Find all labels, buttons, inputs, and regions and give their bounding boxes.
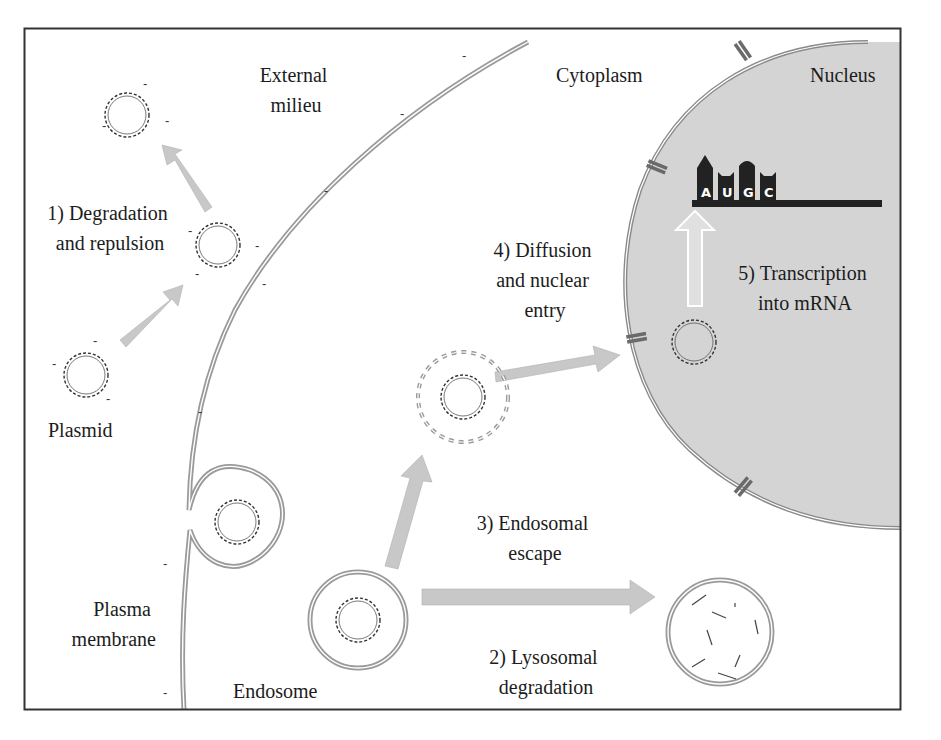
plasmid-in-endosome [336, 598, 380, 642]
svg-text:-: - [102, 118, 106, 133]
nucleotide-g: G [743, 185, 754, 200]
nucleotide-u: U [722, 185, 733, 200]
svg-text:-: - [143, 76, 147, 91]
svg-text:-: - [400, 106, 404, 121]
label-plasmid: Plasmid [48, 419, 112, 441]
plasmid [105, 93, 149, 137]
svg-text:-: - [195, 266, 199, 281]
nucleotide-c: C [764, 185, 774, 200]
plasma-membrane [183, 42, 528, 710]
svg-text:-: - [188, 223, 192, 238]
plasmid [64, 353, 108, 397]
nucleotide-a: A [701, 185, 711, 200]
gene-delivery-diagram: A U G C -- -- -- -- -- -- -- -- External… [0, 0, 941, 740]
arrow-step4 [495, 346, 620, 382]
plasmid [196, 223, 240, 267]
svg-text:-: - [324, 183, 328, 198]
label-step-1: 1) Degradation and repulsion [47, 202, 173, 255]
nuclear-pore [734, 40, 752, 61]
label-endosome: Endosome [233, 680, 318, 702]
label-step-3: 3) Endosomal escape [477, 512, 594, 565]
label-cytoplasm: Cytoplasm [556, 64, 643, 87]
svg-text:-: - [52, 356, 56, 371]
label-nucleus: Nucleus [810, 64, 876, 86]
label-external-milieu: External milieu [260, 64, 333, 116]
label-step-4: 4) Diffusion and nuclear entry [494, 239, 597, 322]
plasmid-engulfed [215, 500, 259, 544]
arrow-step1-lower [120, 285, 183, 347]
dna-fragments [692, 595, 758, 679]
svg-text:-: - [198, 404, 202, 419]
label-step-2: 2) Lysosomal degradation [489, 646, 602, 699]
svg-text:-: - [262, 276, 266, 291]
svg-text:-: - [255, 238, 259, 253]
arrow-step3 [385, 455, 432, 569]
svg-text:-: - [106, 391, 110, 406]
plasmid-escaped [441, 375, 485, 419]
svg-text:-: - [462, 48, 466, 63]
label-plasma-membrane: Plasma membrane [72, 598, 157, 650]
svg-text:-: - [163, 685, 167, 700]
svg-text:-: - [93, 333, 97, 348]
ruptured-endosome [418, 352, 508, 442]
svg-text:-: - [165, 113, 169, 128]
arrow-step2 [422, 580, 655, 614]
svg-text:-: - [163, 556, 167, 571]
nucleus [625, 42, 901, 528]
